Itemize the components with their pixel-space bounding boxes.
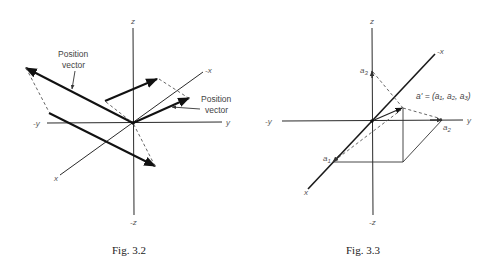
- annotation-position-label: Position: [58, 49, 89, 59]
- dashed-edge: [106, 102, 133, 123]
- figure-caption: Fig. 3.3: [346, 244, 380, 256]
- neg-y-axis-label: -y: [265, 117, 273, 126]
- free-vector-right: [105, 79, 157, 101]
- neg-x-axis-label: -x: [437, 47, 445, 56]
- origin-point: [370, 119, 374, 123]
- figures-canvas: z -z -y y x -x Position vector Position …: [0, 0, 494, 267]
- dashed-a1-to-tip: [334, 110, 401, 161]
- z-axis-label: z: [130, 17, 135, 26]
- a3-label: a3: [360, 66, 368, 76]
- base-edge-y: [403, 120, 442, 162]
- figure-3-2: z -z -y y x -x Position vector Position …: [26, 17, 232, 256]
- z-axis-label: z: [369, 17, 374, 26]
- neg-z-axis-label: -z: [369, 218, 376, 227]
- dashed-tip-to-a2: [403, 108, 442, 119]
- neg-y-axis-label: -y: [33, 119, 41, 128]
- x-axis-label: x: [303, 188, 309, 197]
- figure-caption: Fig. 3.2: [112, 244, 146, 256]
- a2-label: a2: [443, 123, 451, 133]
- dashed-edge: [159, 79, 190, 99]
- figure-3-3: z -z -y y x -x a3 a2 a1 a' = (a₁, a₂, a₃…: [265, 17, 472, 256]
- y-axis-label: y: [466, 116, 472, 125]
- a1-label: a1: [323, 154, 331, 164]
- annotation-position-label: Position: [201, 94, 232, 104]
- annotation-vector-label: vector: [205, 105, 228, 115]
- origin-point: [131, 121, 135, 125]
- vector-a-prime-label: a' = (a₁, a₂, a₃): [416, 91, 471, 101]
- neg-z-axis-label: -z: [130, 218, 137, 227]
- x-axis-label: x: [53, 174, 59, 183]
- a1-marker: [333, 155, 340, 162]
- vector-a-prime: [372, 108, 402, 121]
- annotation-arrow: [72, 71, 75, 89]
- dashed-a3-to-tip: [373, 72, 403, 108]
- y-axis-label: y: [225, 118, 231, 127]
- neg-x-axis-label: -x: [205, 66, 213, 75]
- annotation-arrow: [172, 107, 200, 109]
- annotation-vector-label: vector: [62, 60, 85, 70]
